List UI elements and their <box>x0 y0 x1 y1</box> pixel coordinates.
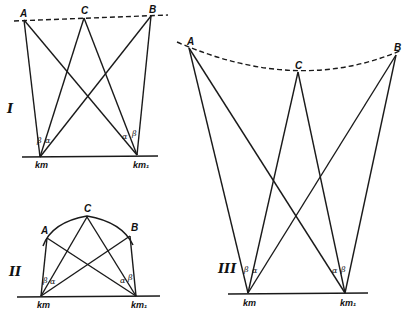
panel-I-station-km1: km₁ <box>133 160 149 170</box>
panel-II-point-B: B <box>131 222 138 233</box>
panel-III-angle-right-2: β <box>340 265 346 274</box>
panel-I-angle-right-2: β <box>131 129 137 138</box>
panel-I-baseline <box>22 156 158 157</box>
panel-I-point-B: B <box>149 4 156 15</box>
panel-I-point-A: A <box>19 8 27 19</box>
panel-I-label: I <box>6 101 14 116</box>
panel-II-angle-left-1: β <box>42 276 48 285</box>
panel-III: A C B β α α β km km₁ III <box>177 36 402 308</box>
panel-II-point-A: A <box>40 225 48 236</box>
panel-III-line-km1-C <box>298 72 345 293</box>
panel-I-line-km1-C <box>84 18 137 155</box>
panel-II-baseline <box>17 296 160 297</box>
panel-III-point-C: C <box>295 60 303 71</box>
panel-II-station-km: km <box>37 300 50 310</box>
panel-I: A C B β α α β km km₁ I <box>6 4 168 170</box>
panel-III-station-km: km <box>243 298 256 308</box>
panel-II-point-C: C <box>84 203 92 214</box>
panel-III-label: III <box>217 261 237 276</box>
panel-II: A C B β α α β km km₁ II <box>8 203 160 310</box>
panel-II-angle-right-2: β <box>127 273 133 282</box>
panel-III-point-B: B <box>394 42 401 53</box>
panel-III-line-km1-A <box>189 48 345 293</box>
panel-III-point-A: A <box>186 36 194 47</box>
panel-I-line-km1-A <box>24 20 137 155</box>
panel-II-angle-left-2: α <box>50 277 56 286</box>
panel-I-angle-left-2: α <box>45 136 51 145</box>
panel-III-angle-left-1: β <box>243 265 249 274</box>
panel-II-angle-right-1: α <box>120 276 126 285</box>
panel-III-line-km1-B <box>345 55 396 293</box>
panel-II-line-km1-A <box>47 238 136 296</box>
panel-III-angle-right-1: α <box>332 266 338 275</box>
panel-I-station-km: km <box>35 160 48 170</box>
panel-II-line-km1-C <box>87 217 136 296</box>
panel-III-line-km-A <box>189 48 248 293</box>
panel-III-baseline <box>228 293 368 294</box>
panel-II-label: II <box>8 264 22 279</box>
panel-I-line-km1-B <box>137 16 151 155</box>
diagram-canvas: A C B β α α β km km₁ I A C B β α α β km … <box>0 0 410 316</box>
panel-III-angle-left-2: α <box>252 266 258 275</box>
panel-II-station-km1: km₁ <box>131 300 147 310</box>
panel-III-line-km-C <box>248 72 298 293</box>
panel-II-arc <box>43 216 133 246</box>
panel-I-dashed-line <box>14 15 168 21</box>
panel-III-dashed-arc <box>177 42 402 71</box>
panel-I-angle-left-1: β <box>36 136 42 145</box>
panel-I-point-C: C <box>81 5 89 16</box>
panel-III-station-km1: km₁ <box>340 298 356 308</box>
panel-I-angle-right-1: α <box>122 132 128 141</box>
